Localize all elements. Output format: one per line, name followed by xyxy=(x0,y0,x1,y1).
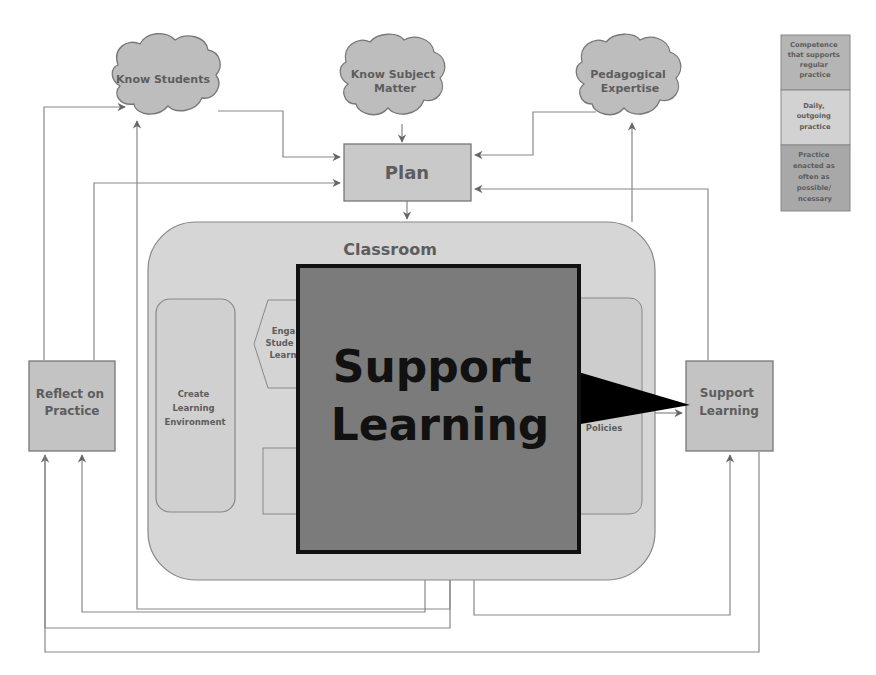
cloud-know-subject-matter: Know Subject Matter xyxy=(340,34,445,114)
reflect-on-practice-box: Reflect on Practice xyxy=(29,361,115,451)
teaching-practice-diagram: Know Students Know Subject Matter Pedago… xyxy=(0,0,876,675)
cloud-label: Know Students xyxy=(116,73,210,86)
support-learning-box: Support Learning xyxy=(686,361,773,451)
create-learning-environment: Create Learning Environment xyxy=(156,299,235,512)
classroom-title: Classroom xyxy=(343,240,437,259)
plan-label: Plan xyxy=(385,162,429,183)
policies-label: Policies xyxy=(586,423,623,433)
cloud-know-students: Know Students xyxy=(112,34,220,114)
cloud-label: Pedagogical Expertise xyxy=(590,68,669,95)
plan-box: Plan xyxy=(344,144,471,201)
connector-students-to-plan xyxy=(218,111,340,157)
legend: Competence that supports regular practic… xyxy=(781,35,850,211)
cloud-pedagogical-expertise: Pedagogical Expertise xyxy=(576,34,681,114)
connector-reflect-to-students xyxy=(44,107,125,360)
connector-pedagogy-to-plan xyxy=(475,112,596,155)
legend-label-enacted: Practice enacted as often as possible/ n… xyxy=(793,151,837,203)
